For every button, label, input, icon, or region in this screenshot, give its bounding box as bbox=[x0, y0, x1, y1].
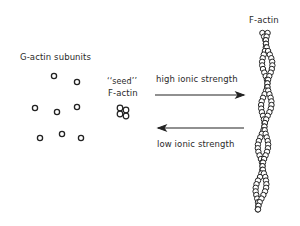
polymerization-arrow bbox=[155, 92, 244, 98]
seed-f-actin-cluster bbox=[117, 105, 129, 119]
actin-diagram bbox=[0, 0, 300, 226]
depolymerization-arrow bbox=[158, 125, 244, 131]
g-actin-subunits bbox=[32, 73, 83, 140]
f-actin-filament bbox=[253, 30, 275, 212]
